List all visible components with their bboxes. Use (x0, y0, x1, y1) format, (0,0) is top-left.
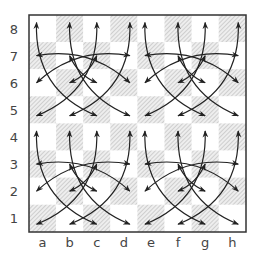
board-squares (29, 15, 246, 232)
file-label: f (176, 235, 181, 250)
square-a1 (29, 205, 56, 232)
rank-label: 6 (10, 76, 18, 91)
square-a8 (29, 15, 56, 42)
chessboard-diagram: 87654321 abcdefgh (0, 0, 256, 260)
square-e5 (137, 96, 164, 123)
file-label: g (201, 235, 209, 250)
rank-labels: 87654321 (10, 22, 18, 227)
square-a4 (29, 123, 56, 150)
rank-label: 7 (10, 49, 18, 64)
file-label: d (120, 235, 128, 250)
file-label: e (147, 235, 155, 250)
square-h8 (219, 15, 246, 42)
file-labels: abcdefgh (39, 235, 237, 250)
rank-label: 4 (10, 130, 18, 145)
rank-label: 8 (10, 22, 18, 37)
rank-label: 2 (10, 184, 18, 199)
square-d4 (110, 123, 137, 150)
square-a5 (29, 96, 56, 123)
square-d1 (110, 205, 137, 232)
square-e1 (137, 205, 164, 232)
square-d8 (110, 15, 137, 42)
square-h4 (219, 123, 246, 150)
square-h1 (219, 205, 246, 232)
file-label: h (228, 235, 236, 250)
square-e8 (137, 15, 164, 42)
rank-label: 5 (10, 103, 18, 118)
rank-label: 1 (10, 211, 18, 226)
file-label: a (39, 235, 47, 250)
square-h5 (219, 96, 246, 123)
square-d5 (110, 96, 137, 123)
square-e4 (137, 123, 164, 150)
rank-label: 3 (10, 157, 18, 172)
file-label: b (66, 235, 74, 250)
file-label: c (93, 235, 100, 250)
